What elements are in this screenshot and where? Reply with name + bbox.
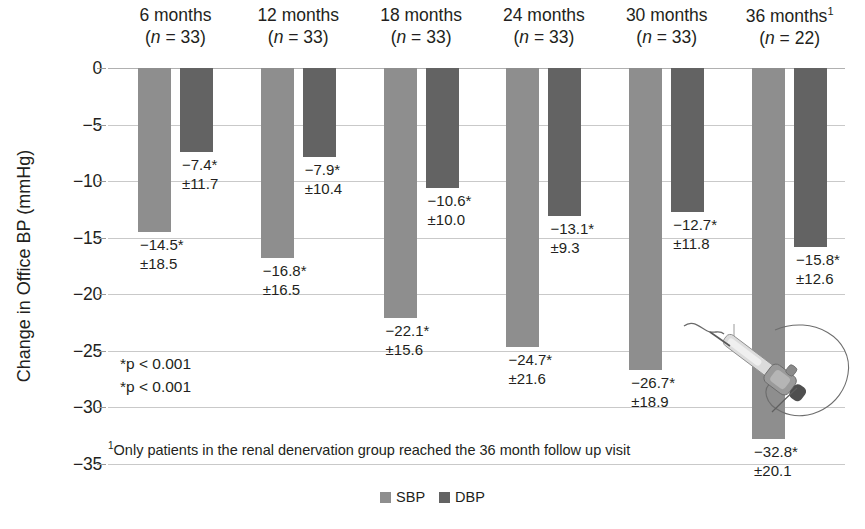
bar-sbp (138, 68, 171, 232)
bar-value: −14.5* (140, 236, 184, 253)
bar-value: −10.6* (428, 192, 472, 209)
bar-value-sd: ±10.4 (305, 180, 342, 199)
bar-dbp (303, 68, 336, 157)
group-header-n: (n = 33) (380, 26, 462, 48)
bar-sbp (506, 68, 539, 347)
y-axis-tick-label: −20 (56, 284, 102, 305)
bar-value-sd: ±20.1 (754, 462, 798, 481)
bar-value-label: −15.8*±12.6 (796, 251, 840, 289)
p-value-annotations: *p < 0.001 *p < 0.001 (120, 352, 191, 399)
bar-value-sd: ±10.0 (428, 211, 472, 230)
bar-group: 18 months(n = 33)−22.1*±15.6−10.6*±10.0 (384, 68, 459, 464)
y-axis-tick-mark (97, 238, 106, 239)
gridline (108, 294, 845, 295)
bar-value-label: −7.9*±10.4 (305, 161, 342, 199)
p-value-line-2: *p < 0.001 (120, 375, 191, 398)
y-axis-tick-labels: 0−5−10−15−20−25−30−35 (50, 68, 102, 464)
group-header: 36 months1(n = 22) (746, 4, 834, 50)
bar-value-label: −26.7*±18.9 (631, 374, 675, 412)
y-axis-tick-label: −30 (56, 397, 102, 418)
legend-swatch-icon (439, 492, 450, 503)
bar-value: −7.9* (305, 161, 340, 178)
bar-dbp (671, 68, 704, 212)
y-axis-tick-mark (97, 464, 106, 465)
group-header-n: (n = 22) (746, 27, 834, 49)
bar-dbp (180, 68, 213, 152)
bar-value: −13.1* (550, 220, 594, 237)
group-header-label: 30 months (626, 5, 708, 25)
y-axis-tick-mark (97, 407, 106, 408)
group-header-n: (n = 33) (503, 26, 585, 48)
bar-value: −16.8* (263, 262, 307, 279)
bar-dbp (548, 68, 581, 216)
gridline (108, 181, 845, 182)
bar-dbp (794, 68, 827, 247)
bar-sbp (752, 68, 785, 439)
gridline (108, 68, 845, 69)
y-axis-tick-mark (97, 351, 106, 352)
gridline (108, 238, 845, 239)
plot-area: 6 months(n = 33)−14.5*±18.5−7.4*±11.712 … (108, 68, 845, 464)
bar-group: 24 months(n = 33)−24.7*±21.6−13.1*±9.3 (506, 68, 581, 464)
legend-swatch-icon (380, 492, 391, 503)
bar-value: −32.8* (754, 443, 798, 460)
gridline (108, 464, 845, 465)
bar-value: −26.7* (631, 374, 675, 391)
y-axis-tick-mark (97, 294, 106, 295)
group-header-label: 36 months (746, 6, 828, 26)
footnote-text: Only patients in the renal denervation g… (114, 442, 631, 458)
bar-group: 12 months(n = 33)−16.8*±16.5−7.9*±10.4 (261, 68, 336, 464)
bar-value-label: −14.5*±18.5 (140, 236, 184, 274)
bar-value-label: −7.4*±11.7 (182, 156, 218, 194)
group-header-footnote-marker: 1 (827, 5, 833, 17)
bar-value-label: −12.7*±11.8 (673, 216, 717, 254)
bar-value-sd: ±9.3 (550, 239, 594, 258)
legend-label: SBP (396, 489, 425, 505)
bar-group: 30 months(n = 33)−26.7*±18.9−12.7*±11.8 (629, 68, 704, 464)
group-header-label: 6 months (139, 5, 211, 25)
bar-value-sd: ±11.8 (673, 235, 717, 254)
y-axis-tick-label: −25 (56, 340, 102, 361)
bar-value-sd: ±16.5 (263, 281, 307, 300)
y-axis-tick-label: −35 (56, 454, 102, 475)
bar-value-sd: ±21.6 (508, 370, 552, 389)
bar-value-label: −22.1*±15.6 (386, 322, 430, 360)
y-axis-title: Change in Office BP (mmHg) (14, 150, 35, 382)
bar-value-label: −10.6*±10.0 (428, 192, 472, 230)
y-axis-tick-label: −5 (56, 114, 102, 135)
bar-value: −12.7* (673, 216, 717, 233)
group-header-label: 24 months (503, 5, 585, 25)
bar-value-sd: ±11.7 (182, 175, 218, 194)
bar-value-label: −32.8*±20.1 (754, 443, 798, 481)
group-header-label: 18 months (380, 5, 462, 25)
group-header: 24 months(n = 33) (503, 4, 585, 49)
y-axis-tick-mark (97, 181, 106, 182)
group-header: 12 months(n = 33) (257, 4, 339, 49)
bar-value-sd: ±15.6 (386, 341, 430, 360)
gridline (108, 125, 845, 126)
group-header-n: (n = 33) (257, 26, 339, 48)
bar-value-sd: ±12.6 (796, 270, 840, 289)
y-axis-tick-label: −15 (56, 227, 102, 248)
gridline (108, 407, 845, 408)
bar-group: 6 months(n = 33)−14.5*±18.5−7.4*±11.7 (138, 68, 213, 464)
bar-value: −7.4* (182, 156, 217, 173)
legend-item: SBP (380, 489, 425, 505)
bar-value-label: −24.7*±21.6 (508, 351, 552, 389)
group-header-label: 12 months (257, 5, 339, 25)
bar-value: −15.8* (796, 251, 840, 268)
bar-value: −24.7* (508, 351, 552, 368)
gridline (108, 351, 845, 352)
chart-figure: Change in Office BP (mmHg) 0−5−10−15−20−… (0, 0, 865, 529)
bar-value-sd: ±18.5 (140, 255, 184, 274)
group-header: 18 months(n = 33) (380, 4, 462, 49)
p-value-line-1: *p < 0.001 (120, 352, 191, 375)
y-axis-tick-mark (97, 125, 106, 126)
bar-value-label: −16.8*±16.5 (263, 262, 307, 300)
bar-value-label: −13.1*±9.3 (550, 220, 594, 258)
footnote: 1Only patients in the renal denervation … (108, 440, 630, 458)
group-header-n: (n = 33) (626, 26, 708, 48)
group-header-n: (n = 33) (139, 26, 211, 48)
y-axis-tick-mark (97, 68, 106, 69)
legend-label: DBP (455, 489, 485, 505)
